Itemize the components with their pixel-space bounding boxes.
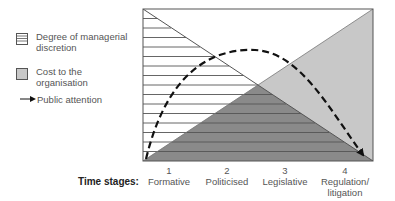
time-stages-label: Time stages: bbox=[78, 176, 139, 187]
stage-number: 4 bbox=[310, 165, 380, 176]
stage-name: Regulation/ bbox=[310, 176, 380, 187]
stage-4: 4 Regulation/ litigation bbox=[310, 165, 380, 198]
stage-name-line2: litigation bbox=[310, 187, 380, 198]
